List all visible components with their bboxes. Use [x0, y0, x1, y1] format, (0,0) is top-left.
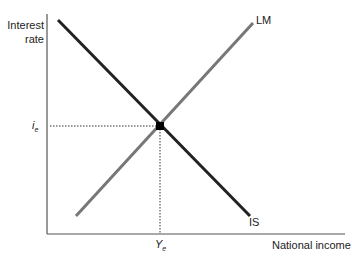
y-axis-label: Interest rate — [6, 18, 44, 46]
y-axis-label-line1: Interest — [6, 18, 44, 32]
lm-label: LM — [256, 14, 271, 26]
is-lm-chart — [0, 0, 352, 259]
is-curve — [58, 20, 250, 216]
y-axis-label-line2: rate — [6, 32, 44, 46]
equilibrium-point — [156, 122, 164, 130]
x-axis-label: National income — [272, 239, 351, 251]
is-label: IS — [249, 216, 259, 228]
equilibrium-rate-label: ie — [32, 119, 38, 133]
lm-curve — [76, 23, 253, 216]
equilibrium-income-label: Ye — [155, 238, 166, 252]
